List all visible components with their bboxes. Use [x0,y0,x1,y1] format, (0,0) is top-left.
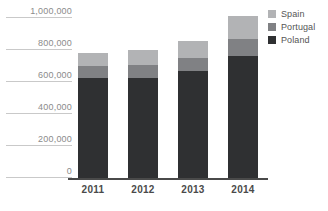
legend-swatch-icon [268,23,276,31]
x-axis-label-2011: 2011 [73,184,113,195]
bar-segment-portugal [78,66,108,78]
y-axis-tick-label: 0 [0,166,72,176]
y-axis-tick-rule [6,177,72,178]
legend-swatch-icon [268,10,276,18]
y-axis-tick-rule [6,145,72,146]
bar-2012 [128,50,158,178]
bar-segment-poland [178,71,208,178]
bar-segment-spain [228,16,258,38]
bar-segment-poland [228,56,258,178]
legend-item-poland[interactable]: Poland [268,34,328,45]
bar-segment-portugal [228,39,258,56]
x-axis-label-2012: 2012 [123,184,163,195]
y-axis-tick-label: 200,000 [0,134,72,144]
y-axis-tick-label: 1,000,000 [0,6,72,16]
y-axis-tick-rule [6,49,72,50]
bar-2013 [178,41,208,178]
bar-segment-spain [178,41,208,58]
bar-segment-poland [78,78,108,178]
chart-legend: SpainPortugalPoland [268,8,328,47]
y-axis-tick-label: 600,000 [0,70,72,80]
stacked-bar-chart: 1,000,000800,000600,000400,000200,0000 2… [0,0,328,211]
legend-label: Portugal [281,22,315,32]
legend-item-spain[interactable]: Spain [268,8,328,19]
legend-label: Spain [281,9,305,19]
legend-item-portugal[interactable]: Portugal [268,21,328,32]
bar-2014 [228,16,258,178]
bar-segment-spain [78,53,108,66]
y-axis-tick-rule [6,81,72,82]
x-axis-line [68,178,268,180]
y-axis-tick-label: 400,000 [0,102,72,112]
bar-segment-portugal [178,58,208,72]
bar-segment-portugal [128,65,158,77]
bar-2011 [78,53,108,178]
legend-label: Poland [281,35,310,45]
y-axis-tick-rule [6,17,72,18]
bar-segment-spain [128,50,158,65]
y-axis-tick-rule [6,113,72,114]
bar-segment-poland [128,78,158,178]
plot-area [72,18,266,178]
x-axis-label-2013: 2013 [173,184,213,195]
legend-swatch-icon [268,36,276,44]
y-axis-tick-label: 800,000 [0,38,72,48]
x-axis-label-2014: 2014 [223,184,263,195]
